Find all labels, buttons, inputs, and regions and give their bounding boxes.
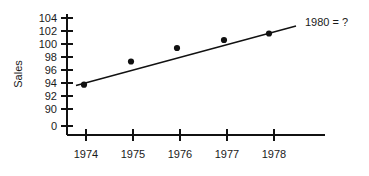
- y-tick-label-102: 102: [39, 25, 57, 37]
- y-tick-label-92: 92: [45, 90, 57, 102]
- x-tick-label-1977: 1977: [215, 148, 239, 160]
- x-tick-label-1974: 1974: [74, 148, 98, 160]
- y-tick-label-98: 98: [45, 51, 57, 63]
- y-tick-label-94: 94: [45, 77, 57, 89]
- y-tick-label-100: 100: [39, 38, 57, 50]
- x-tick-label-1978: 1978: [262, 148, 286, 160]
- data-point-1975: [128, 58, 134, 64]
- y-tick-label-96: 96: [45, 64, 57, 76]
- chart-plot-area: 104 102 100 98 96 94 92 90 0 1974 1975 1…: [0, 0, 369, 176]
- y-tick-label-104: 104: [39, 12, 57, 24]
- y-axis-title: Sales: [12, 60, 24, 88]
- data-point-1976: [174, 45, 180, 51]
- y-tick-label-90: 90: [45, 103, 57, 115]
- x-tick-label-1976: 1976: [168, 148, 192, 160]
- y-tick-label-0: 0: [51, 120, 57, 132]
- data-point-1978: [266, 30, 272, 36]
- data-point-1974: [81, 82, 87, 88]
- x-tick-label-1975: 1975: [121, 148, 145, 160]
- forecast-annotation: 1980 = ?: [305, 16, 348, 28]
- data-point-1977: [221, 37, 227, 43]
- sales-trend-chart: 104 102 100 98 96 94 92 90 0 1974 1975 1…: [0, 0, 369, 176]
- trend-line: [76, 26, 296, 86]
